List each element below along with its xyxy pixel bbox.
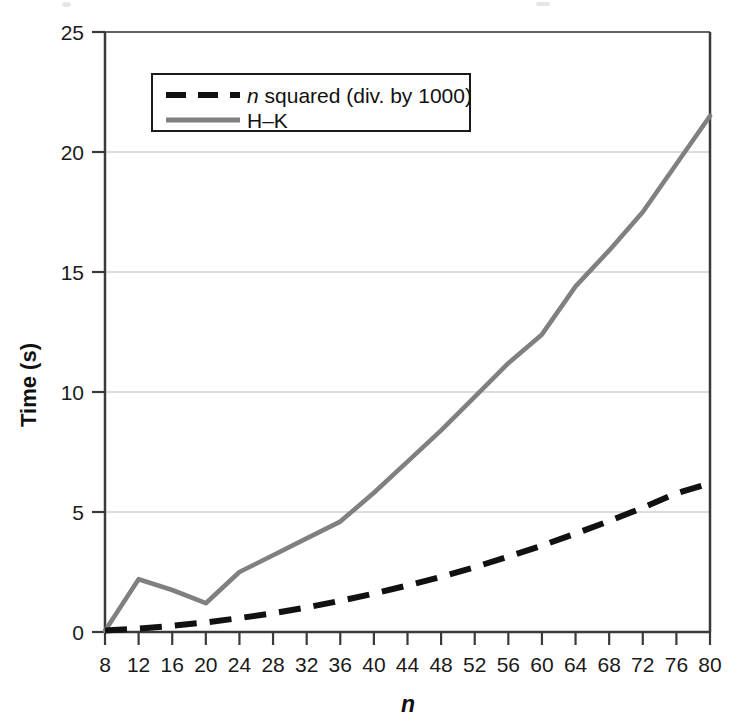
y-tick-label: 10 bbox=[61, 381, 84, 404]
x-tick-label: 48 bbox=[429, 653, 452, 676]
x-tick-label: 16 bbox=[161, 653, 184, 676]
y-tick-label: 0 bbox=[72, 621, 84, 644]
y-tick-label: 20 bbox=[61, 141, 84, 164]
x-tick-label: 64 bbox=[564, 653, 588, 676]
scan-artifact-right bbox=[536, 2, 550, 6]
x-tick-label: 28 bbox=[261, 653, 284, 676]
x-tick-label: 12 bbox=[127, 653, 150, 676]
x-tick-label: 40 bbox=[362, 653, 385, 676]
x-tick-label: 60 bbox=[530, 653, 553, 676]
x-tick-label: 52 bbox=[463, 653, 486, 676]
chart-container: 0510152025 81216202428323640444852566064… bbox=[0, 0, 743, 723]
x-tick-label: 32 bbox=[295, 653, 318, 676]
legend: n squared (div. by 1000) H–K bbox=[152, 74, 472, 132]
x-tick-label: 80 bbox=[698, 653, 721, 676]
x-tick-label: 36 bbox=[329, 653, 352, 676]
y-tick-label: 5 bbox=[72, 501, 84, 524]
x-tick-label: 8 bbox=[99, 653, 111, 676]
legend-label-italic-n: n bbox=[247, 84, 259, 107]
x-tick-label: 72 bbox=[631, 653, 654, 676]
line-chart: 0510152025 81216202428323640444852566064… bbox=[0, 0, 743, 723]
x-tick-label: 24 bbox=[228, 653, 252, 676]
legend-label-n-squared-rest: squared (div. by 1000) bbox=[259, 84, 472, 107]
y-tick-marks bbox=[92, 32, 105, 632]
y-axis-tick-labels: 0510152025 bbox=[61, 21, 84, 644]
legend-label-n-squared: n squared (div. by 1000) bbox=[247, 84, 472, 107]
scan-artifact-left bbox=[62, 2, 71, 7]
x-tick-label: 44 bbox=[396, 653, 420, 676]
x-axis-title: n bbox=[401, 691, 415, 717]
x-axis-tick-labels: 8121620242832364044485256606468727680 bbox=[99, 653, 722, 676]
legend-label-hk: H–K bbox=[247, 109, 288, 132]
x-tick-label: 68 bbox=[597, 653, 620, 676]
y-tick-label: 15 bbox=[61, 261, 84, 284]
x-tick-marks bbox=[105, 632, 710, 645]
y-tick-label: 25 bbox=[61, 21, 84, 44]
y-axis-title: Time (s) bbox=[16, 343, 41, 427]
x-tick-label: 56 bbox=[497, 653, 520, 676]
x-tick-label: 20 bbox=[194, 653, 217, 676]
x-tick-label: 76 bbox=[665, 653, 688, 676]
